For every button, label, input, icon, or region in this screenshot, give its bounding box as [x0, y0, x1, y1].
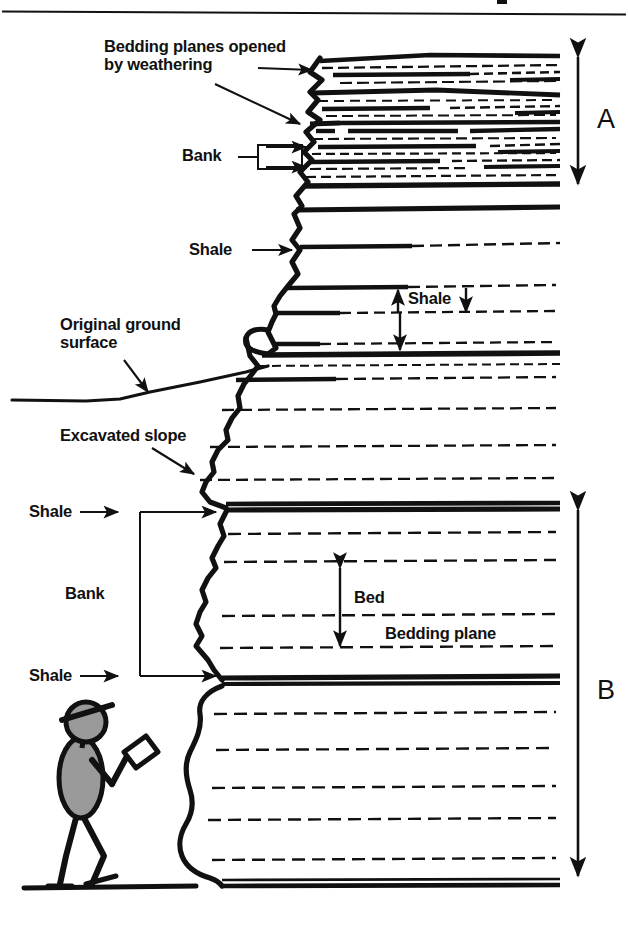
rock-exposure-figure: [0, 0, 628, 930]
zone-b-label: B: [597, 676, 615, 705]
shale-interval-label: Shale: [408, 290, 451, 308]
zone-a-label: A: [597, 105, 615, 134]
original-ground-surface-line: [12, 366, 268, 401]
bank-upper-label: Bank: [182, 147, 222, 165]
zone-b-strata: [208, 503, 560, 886]
diagram-canvas: Bedding planes opened by weathering Bank…: [0, 0, 628, 930]
bed-label: Bed: [354, 589, 385, 607]
geologist-figure: [48, 702, 158, 886]
cliff-face-profile: [180, 58, 322, 886]
bedding-planes-leader-lines: [215, 68, 312, 124]
bank-upper-bracket: [238, 145, 306, 169]
excavated-slope-leader: [152, 448, 194, 474]
bedding-plane-label: Bedding plane: [385, 625, 496, 643]
original-ground-surface-label: Original ground surface: [60, 316, 181, 352]
shale-upper-label: Shale: [189, 241, 232, 259]
excavated-slope-label: Excavated slope: [60, 427, 186, 445]
shale-bank-bottom-label: Shale: [29, 667, 72, 685]
original-ground-surface-leader: [124, 360, 148, 392]
bedding-planes-opened-label: Bedding planes opened by weathering: [104, 38, 286, 74]
zone-a-strata: [304, 55, 560, 186]
shale-bank-top-label: Shale: [29, 503, 72, 521]
bank-lower-label: Bank: [65, 585, 105, 603]
middle-zone-strata: [200, 207, 560, 480]
top-rule: [2, 0, 626, 15]
